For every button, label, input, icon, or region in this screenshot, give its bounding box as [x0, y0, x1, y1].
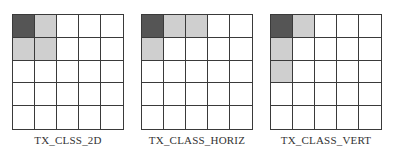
- grid-cell-light: [35, 15, 57, 38]
- grid-cell-light: [271, 38, 293, 61]
- grid-cell-empty: [337, 61, 359, 84]
- grid-cell-empty: [142, 61, 164, 84]
- grid-cell-empty: [79, 106, 101, 129]
- grid-cell-light: [35, 38, 57, 61]
- grid-cell-empty: [293, 83, 315, 106]
- grid-cell-empty: [35, 61, 57, 84]
- grid-cell-empty: [13, 106, 35, 129]
- grid-cell-empty: [186, 61, 208, 84]
- grid-cell-empty: [359, 83, 381, 106]
- grid-cell-light: [13, 38, 35, 61]
- grid-cell-dark: [13, 15, 35, 38]
- grid-cell-empty: [142, 106, 164, 129]
- grid-cell-dark: [271, 15, 293, 38]
- grid-cell-empty: [315, 38, 337, 61]
- grid-cell-empty: [208, 15, 230, 38]
- grid-cell-empty: [101, 106, 123, 129]
- grid-cell-empty: [164, 61, 186, 84]
- grid-cell-empty: [271, 106, 293, 129]
- grid-cell-empty: [57, 83, 79, 106]
- grid-cell-empty: [164, 106, 186, 129]
- grid-cell-empty: [186, 106, 208, 129]
- grid-cell-empty: [315, 61, 337, 84]
- panel-label: TX_CLASS_HORIZ: [141, 134, 253, 146]
- grid-cell-empty: [293, 106, 315, 129]
- grid: [141, 14, 253, 130]
- grid-cell-empty: [35, 83, 57, 106]
- grid-cell-dark: [142, 15, 164, 38]
- panel-tx-class-vert: TX_CLASS_VERT: [270, 14, 382, 130]
- grid-cell-empty: [79, 83, 101, 106]
- grid-cell-empty: [13, 61, 35, 84]
- grid-cell-empty: [337, 38, 359, 61]
- panel-label: TX_CLSS_2D: [12, 134, 124, 146]
- panel-tx-clss-2d: TX_CLSS_2D: [12, 14, 124, 130]
- grid-cell-empty: [79, 61, 101, 84]
- grid-cell-empty: [230, 38, 252, 61]
- grid-cell-empty: [337, 106, 359, 129]
- grid-cell-empty: [315, 106, 337, 129]
- grid-cell-empty: [208, 38, 230, 61]
- grid-cell-light: [142, 38, 164, 61]
- grid-cell-empty: [337, 15, 359, 38]
- grid: [270, 14, 382, 130]
- panel-label: TX_CLASS_VERT: [270, 134, 382, 146]
- grid-cell-empty: [79, 15, 101, 38]
- grid-cell-light: [164, 15, 186, 38]
- grid-cell-empty: [230, 61, 252, 84]
- grid-cell-empty: [208, 106, 230, 129]
- grid-cell-empty: [35, 106, 57, 129]
- grid-cell-empty: [359, 38, 381, 61]
- grid-cell-empty: [230, 106, 252, 129]
- grid-cell-empty: [13, 83, 35, 106]
- grid-cell-empty: [337, 83, 359, 106]
- grid-cell-empty: [230, 83, 252, 106]
- grid-cell-empty: [164, 83, 186, 106]
- grid-cell-empty: [359, 106, 381, 129]
- grid-cell-empty: [315, 15, 337, 38]
- grid-cell-empty: [57, 61, 79, 84]
- grid-cell-empty: [57, 106, 79, 129]
- grid-cell-empty: [164, 38, 186, 61]
- grid-cell-light: [293, 15, 315, 38]
- grid-cell-empty: [101, 83, 123, 106]
- grid-cell-empty: [315, 83, 337, 106]
- grid-cell-empty: [101, 15, 123, 38]
- grid-cell-light: [186, 15, 208, 38]
- grid-cell-empty: [142, 83, 164, 106]
- grid: [12, 14, 124, 130]
- grid-cell-empty: [230, 15, 252, 38]
- grid-cell-empty: [57, 15, 79, 38]
- grid-cell-empty: [208, 61, 230, 84]
- grid-cell-empty: [186, 83, 208, 106]
- grid-cell-empty: [293, 38, 315, 61]
- grid-cell-empty: [359, 61, 381, 84]
- grid-cell-empty: [271, 83, 293, 106]
- grid-cell-empty: [57, 38, 79, 61]
- grid-cell-empty: [101, 61, 123, 84]
- grid-cell-empty: [208, 83, 230, 106]
- grid-cell-empty: [293, 61, 315, 84]
- grid-cell-empty: [79, 38, 101, 61]
- grid-cell-empty: [101, 38, 123, 61]
- grid-cell-empty: [359, 15, 381, 38]
- panel-tx-class-horiz: TX_CLASS_HORIZ: [141, 14, 253, 130]
- grid-cell-light: [271, 61, 293, 84]
- grid-cell-empty: [186, 38, 208, 61]
